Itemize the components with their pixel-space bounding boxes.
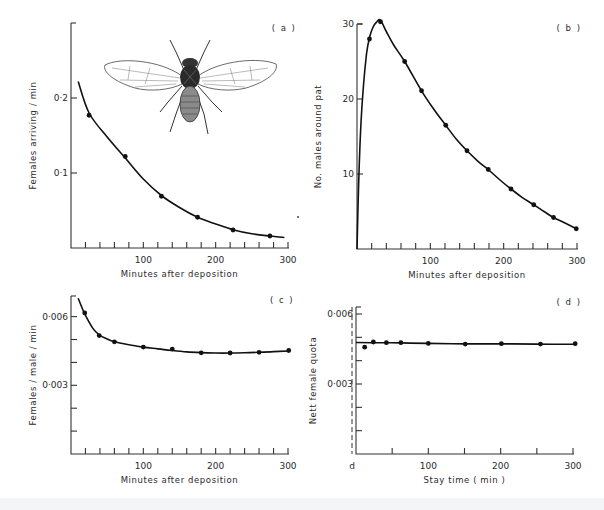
panel-d: 100200300d0·0030·006Stay time ( min )Net… — [308, 297, 582, 485]
data-point — [486, 167, 491, 172]
x-tick-label: 200 — [495, 256, 512, 266]
y-tick-label: 0·006 — [42, 312, 68, 322]
x-tick-label: 100 — [135, 461, 152, 471]
y-tick-label: 0·2 — [54, 93, 68, 103]
y-tick-label: 20 — [343, 94, 355, 104]
fitted-curve — [357, 20, 576, 249]
data-point — [159, 194, 164, 199]
data-point — [82, 311, 87, 316]
data-point — [398, 340, 403, 345]
x-tick-label: 100 — [135, 255, 152, 265]
y-tick-label: 30 — [343, 19, 355, 29]
data-point — [199, 350, 204, 355]
data-point — [257, 350, 262, 355]
axes — [71, 296, 289, 454]
x-axis-title: Minutes after deposition — [121, 269, 239, 279]
y-axis-title: Nett female quota — [308, 337, 318, 425]
y-axis-title: Females arriving / min — [28, 82, 38, 190]
data-point — [531, 202, 536, 207]
data-point — [419, 88, 424, 93]
y-tick-label: 0·003 — [42, 380, 68, 390]
x-tick-label: 300 — [568, 256, 585, 266]
data-point — [123, 154, 128, 159]
x-axis-title: Stay time ( min ) — [424, 475, 506, 485]
data-point — [195, 215, 200, 220]
x-origin-label: d — [349, 461, 355, 471]
data-point — [362, 345, 367, 350]
fly-illustration-icon — [105, 40, 277, 134]
data-point — [268, 234, 273, 239]
data-point — [378, 19, 383, 24]
figure: 1002003000·10·2Minutes after depositionF… — [0, 0, 604, 510]
x-tick-label: 100 — [420, 461, 437, 471]
data-point — [286, 348, 291, 353]
x-tick-label: 100 — [422, 256, 439, 266]
data-point — [499, 341, 504, 346]
axes — [357, 24, 578, 249]
data-point — [551, 215, 556, 220]
data-point — [426, 341, 431, 346]
stray-dot — [297, 216, 299, 218]
data-point — [443, 123, 448, 128]
data-point — [465, 148, 470, 153]
x-axis-title: Minutes after deposition — [121, 475, 239, 485]
data-point — [367, 37, 372, 42]
fitted-curve — [78, 298, 289, 353]
y-tick-label: 0·003 — [327, 379, 353, 389]
data-point — [384, 340, 389, 345]
data-point — [509, 187, 514, 192]
panel-c: 1002003000·0030·006Minutes after deposit… — [28, 295, 297, 485]
data-point — [402, 59, 407, 64]
data-point — [170, 347, 175, 352]
data-point — [87, 113, 92, 118]
x-tick-label: 200 — [207, 255, 224, 265]
data-point — [574, 226, 579, 231]
y-tick-label: 10 — [343, 169, 355, 179]
data-point — [231, 228, 236, 233]
y-tick-label: 0·1 — [54, 168, 68, 178]
axes — [356, 307, 574, 454]
chart-canvas: 1002003000·10·2Minutes after depositionF… — [0, 0, 604, 510]
y-tick-label: 0·006 — [327, 309, 353, 319]
x-tick-label: 300 — [279, 461, 296, 471]
data-point — [112, 339, 117, 344]
axes — [71, 23, 289, 248]
panel-label: ( b ) — [557, 23, 582, 33]
data-point — [463, 342, 468, 347]
x-tick-label: 300 — [564, 461, 581, 471]
panel-label: ( c ) — [270, 295, 294, 305]
y-axis-title: Females / male / min — [28, 325, 38, 426]
data-point — [228, 351, 233, 356]
x-tick-label: 300 — [279, 255, 296, 265]
panel-b: 100200300102030Minutes after depositionN… — [313, 19, 586, 280]
data-point — [538, 342, 543, 347]
data-point — [97, 333, 102, 338]
x-axis-title: Minutes after deposition — [408, 270, 526, 280]
panel-label: ( d ) — [557, 297, 582, 307]
panel-label: ( a ) — [272, 23, 297, 33]
x-tick-label: 200 — [492, 461, 509, 471]
data-point — [141, 345, 146, 350]
data-point — [573, 341, 578, 346]
data-point — [371, 340, 376, 345]
y-axis-title: No. males around pat — [313, 85, 323, 189]
x-tick-label: 200 — [207, 461, 224, 471]
